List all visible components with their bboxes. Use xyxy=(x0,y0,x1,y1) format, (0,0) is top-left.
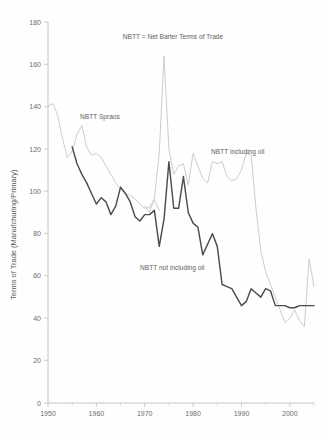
y-tick-label-180: 180 xyxy=(29,19,41,26)
y-tick-label-100: 100 xyxy=(29,188,41,195)
annotation-title: NBTT = Net Barter Terms of Trade xyxy=(123,33,224,40)
annotations-group: NBTT = Net Barter Terms of Trade NBTT Sp… xyxy=(80,33,265,272)
x-tick-label-1990: 1990 xyxy=(234,410,250,417)
x-tick-label-1950: 1950 xyxy=(40,410,56,417)
terms-of-trade-line-chart: 180 160 140 120 100 80 60 40 20 0 1950 xyxy=(0,0,322,435)
x-tick-label-2000: 2000 xyxy=(282,410,298,417)
axes xyxy=(48,22,314,403)
y-axis-label: Terms of Trade (Manufchuring/Primary) xyxy=(9,169,18,300)
y-tick-label-160: 160 xyxy=(29,61,41,68)
x-tick-label-1970: 1970 xyxy=(137,410,153,417)
series-nbtt-including-oil-line xyxy=(145,56,314,327)
series-group xyxy=(48,56,314,327)
y-tick-label-40: 40 xyxy=(33,315,41,322)
chart-figure: 180 160 140 120 100 80 60 40 20 0 1950 xyxy=(0,0,322,435)
annotation-nbtt-spraos: NBTT Spraos xyxy=(80,113,121,121)
y-tick-label-140: 140 xyxy=(29,103,41,110)
y-tick-label-80: 80 xyxy=(33,230,41,237)
y-tick-label-0: 0 xyxy=(37,400,41,407)
y-tick-label-20: 20 xyxy=(33,357,41,364)
annotation-nbtt-not-including-oil: NBTT not including oil xyxy=(140,264,205,272)
x-tick-label-1980: 1980 xyxy=(185,410,201,417)
y-tick-label-60: 60 xyxy=(33,272,41,279)
y-tick-label-120: 120 xyxy=(29,146,41,153)
x-tick-label-1960: 1960 xyxy=(89,410,105,417)
x-axis-ticks: 1950 1960 1970 1980 1990 2000 xyxy=(40,403,314,417)
y-axis-ticks: 180 160 140 120 100 80 60 40 20 0 xyxy=(29,19,48,407)
annotation-nbtt-including-oil: NBTT including oil xyxy=(211,148,265,156)
